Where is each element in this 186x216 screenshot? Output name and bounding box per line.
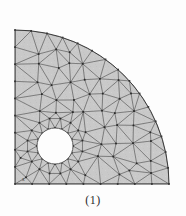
mesh-node	[72, 111, 74, 113]
mesh-node	[49, 173, 51, 175]
mesh-node	[112, 156, 114, 158]
mesh-node	[51, 84, 53, 86]
mesh-node	[136, 163, 138, 165]
hole-boundary	[37, 128, 73, 164]
mesh-node	[82, 151, 84, 153]
mesh-node	[150, 172, 152, 174]
mesh-node	[102, 93, 104, 95]
figure-container: x (1)	[0, 0, 186, 216]
figure-caption: (1)	[0, 192, 186, 208]
mesh-node	[37, 81, 39, 83]
mesh-node	[116, 124, 118, 126]
mesh-node	[38, 53, 40, 55]
mesh-node	[69, 62, 71, 64]
mesh-node	[130, 93, 132, 95]
mesh-node	[70, 122, 72, 124]
mesh-node	[149, 131, 151, 133]
mesh-node	[31, 130, 33, 132]
mesh-node	[27, 151, 29, 153]
mesh-node	[60, 118, 62, 120]
mesh-node	[39, 168, 41, 170]
mesh-node	[133, 110, 135, 112]
mesh-node	[77, 161, 79, 163]
mesh-node	[31, 161, 33, 163]
mesh-node	[97, 155, 99, 157]
mesh-node	[58, 67, 60, 69]
mesh-node	[82, 63, 84, 65]
mesh-node	[101, 110, 103, 112]
mesh-node	[129, 170, 131, 172]
mesh-node	[39, 110, 41, 112]
axis-label-x: x	[21, 176, 25, 182]
mesh-node	[73, 99, 75, 101]
mesh-node	[85, 131, 87, 133]
mesh-node	[55, 49, 57, 51]
mesh-node	[70, 81, 72, 83]
mesh-node	[38, 63, 40, 65]
mesh-node	[69, 51, 71, 53]
fem-mesh-diagram: x	[0, 0, 186, 194]
mesh-node	[119, 98, 121, 100]
mesh-node	[39, 122, 41, 124]
mesh-node	[133, 125, 135, 127]
mesh-node	[150, 160, 152, 162]
mesh-node	[82, 111, 84, 113]
mesh-node	[84, 174, 86, 176]
mesh-node	[70, 168, 72, 170]
mesh-node	[56, 99, 58, 101]
mesh-node	[101, 143, 103, 145]
mesh-node	[77, 130, 79, 132]
mesh-node	[150, 140, 152, 142]
mesh-node	[84, 79, 86, 81]
mesh-node	[41, 93, 43, 95]
mesh-node	[104, 126, 106, 128]
mesh-node	[114, 112, 116, 114]
mesh-node	[132, 142, 134, 144]
mesh-node	[55, 112, 57, 114]
mesh-node	[118, 79, 120, 81]
mesh-node	[49, 118, 51, 120]
mesh-node	[25, 176, 27, 178]
mesh-node	[115, 143, 117, 145]
mesh-node	[119, 174, 121, 176]
mesh-node	[20, 157, 22, 159]
mesh-node	[60, 173, 62, 175]
mesh-node	[99, 78, 101, 80]
mesh-node	[27, 140, 29, 142]
mesh-node	[89, 93, 91, 95]
mesh-node	[82, 140, 84, 142]
